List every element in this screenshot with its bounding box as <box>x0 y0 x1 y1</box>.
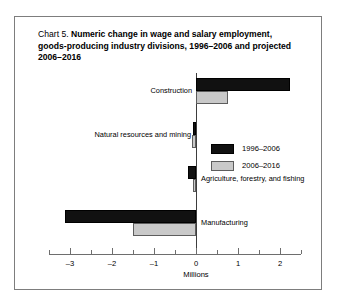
bar-construction-2006-2016 <box>196 91 228 104</box>
x-axis-tick-label-neg1: –1 <box>139 259 169 268</box>
zero-axis-segment <box>196 117 197 161</box>
x-axis-tick-label-1: 1 <box>223 259 253 268</box>
bar-agriculture-forestry-and-fishing-1996-2006 <box>188 166 196 179</box>
bar-manufacturing-1996-2006 <box>65 210 196 223</box>
x-axis-minor-tick <box>133 250 134 254</box>
bar-agriculture-forestry-and-fishing-2006-2016 <box>193 179 196 192</box>
x-axis-major-tick <box>280 248 281 254</box>
x-axis-tick-label-neg3: –3 <box>55 259 85 268</box>
plot-area: ConstructionNatural resources and mining… <box>15 17 323 291</box>
x-axis-minor-tick <box>49 250 50 254</box>
gray-square-swatch <box>211 161 234 171</box>
x-axis-tick-label-2: 2 <box>265 259 295 268</box>
category-label-agriculture-forestry-and-fishing: Agriculture, forestry, and fishing <box>201 174 304 183</box>
zero-axis-segment <box>196 205 197 249</box>
x-axis-line <box>49 254 301 255</box>
bar-natural-resources-and-mining-1996-2006 <box>193 122 196 135</box>
bar-construction-1996-2006 <box>196 78 290 91</box>
zero-axis-segment <box>196 161 197 205</box>
x-axis-tick-label-0: 0 <box>181 259 211 268</box>
x-axis-major-tick <box>154 248 155 254</box>
x-axis-tick-label-neg2: –2 <box>97 259 127 268</box>
bar-manufacturing-2006-2016 <box>133 223 196 236</box>
x-axis-minor-tick <box>301 250 302 254</box>
legend-label: 1996–2006 <box>242 144 280 154</box>
bar-natural-resources-and-mining-2006-2016 <box>192 135 196 148</box>
x-axis-major-tick <box>112 248 113 254</box>
x-axis-minor-tick <box>175 250 176 254</box>
legend-label: 2006–2016 <box>242 161 280 171</box>
x-axis-minor-tick <box>259 250 260 254</box>
x-axis-minor-tick <box>91 250 92 254</box>
x-axis-major-tick <box>238 248 239 254</box>
black-square-swatch <box>211 144 234 154</box>
chart-figure-container: Chart 5. Numeric change in wage and sala… <box>14 16 322 290</box>
category-label-construction: Construction <box>151 86 193 95</box>
category-label-manufacturing: Manufacturing <box>201 218 248 227</box>
x-axis-minor-tick <box>217 250 218 254</box>
x-axis-major-tick <box>196 248 197 254</box>
category-label-natural-resources-and-mining: Natural resources and mining <box>94 130 191 139</box>
x-axis-title: Millions <box>166 270 226 279</box>
x-axis-major-tick <box>70 248 71 254</box>
